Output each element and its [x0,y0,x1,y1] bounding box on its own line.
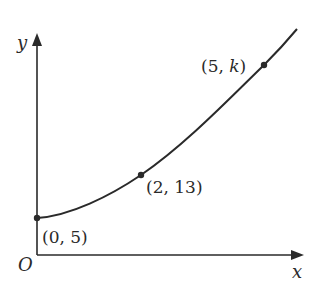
point-label-5-k-var: k [229,56,239,76]
point-label-5-k: (5, k) [201,56,246,76]
point-label-0-5: (0, 5) [42,227,88,247]
x-axis-label: x [292,261,302,282]
point-label-5-k-suffix: ) [240,56,247,76]
x-axis-arrow-icon [291,250,304,260]
point-2-13 [138,172,144,178]
y-axis-arrow-icon [32,33,42,46]
y-axis-label: y [16,32,28,53]
point-label-5-k-prefix: (5, [201,56,229,76]
origin-label: O [18,254,33,275]
graph-svg: y O x (0, 5) (2, 13) (5, k) [0,0,322,289]
point-label-2-13: (2, 13) [146,177,203,197]
point-5-k [261,62,267,68]
point-0-5 [34,215,40,221]
graph-diagram: y O x (0, 5) (2, 13) (5, k) [0,0,322,289]
